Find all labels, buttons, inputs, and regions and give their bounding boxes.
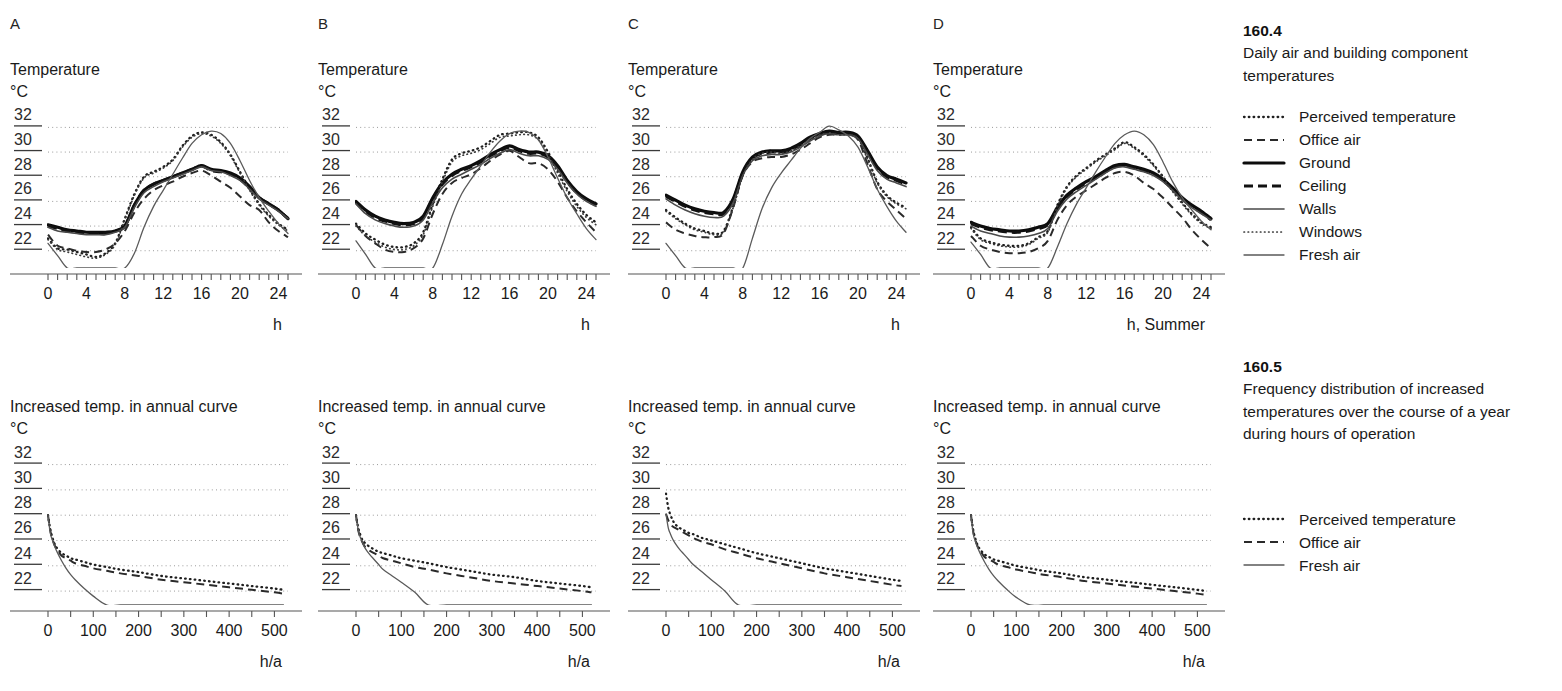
- xtick-label-24: 24: [888, 285, 906, 302]
- xtick-label-100: 100: [80, 622, 107, 639]
- legend-item-ground: Ground: [1243, 151, 1543, 174]
- series-line-perceived-temperature: [48, 515, 283, 590]
- xtick-label-400: 400: [524, 622, 551, 639]
- chart-B-annual: 2224262830320100200300400500: [318, 453, 614, 647]
- xtick-label-4: 4: [700, 285, 709, 302]
- series-line-ceiling: [971, 166, 1211, 233]
- x-axis-label: h/a: [933, 653, 1205, 671]
- legend-label: Office air: [1299, 535, 1361, 551]
- ytick-label-28: 28: [14, 156, 32, 173]
- xtick-label-12: 12: [772, 285, 790, 302]
- series-line-walls: [971, 167, 1211, 238]
- y-axis-unit: °C: [628, 418, 924, 440]
- series-line-office-air: [356, 151, 596, 253]
- ytick-label-22: 22: [14, 230, 32, 247]
- figure-root: ATemperature°C22242628303204812162024hIn…: [0, 0, 1562, 691]
- xtick-label-8: 8: [428, 285, 437, 302]
- x-axis-label: h/a: [10, 653, 282, 671]
- ytick-label-32: 32: [632, 107, 650, 124]
- xtick-label-12: 12: [154, 285, 172, 302]
- xtick-label-24: 24: [1193, 285, 1211, 302]
- series-line-perceived-temperature: [971, 515, 1206, 591]
- ytick-label-24: 24: [937, 205, 955, 222]
- ytick-label-30: 30: [937, 469, 955, 486]
- xtick-label-300: 300: [1093, 622, 1120, 639]
- xtick-label-8: 8: [738, 285, 747, 302]
- series-line-fresh-air: [48, 131, 288, 269]
- y-axis-unit: °C: [10, 418, 306, 440]
- xtick-label-200: 200: [743, 622, 770, 639]
- ytick-label-22: 22: [937, 230, 955, 247]
- series-line-perceived-temperature: [666, 494, 901, 581]
- legend-swatch-bold-dashed-icon: [1243, 180, 1285, 192]
- chart-D-daily: 22242628303204812162024: [933, 116, 1229, 310]
- xtick-label-0: 0: [662, 285, 671, 302]
- ytick-label-26: 26: [632, 181, 650, 198]
- ytick-label-30: 30: [322, 469, 340, 486]
- xtick-label-300: 300: [170, 622, 197, 639]
- legend-label: Walls: [1299, 201, 1336, 217]
- xtick-label-20: 20: [539, 285, 557, 302]
- panel-a-annual: Increased temp. in annual curve°C2224262…: [10, 396, 306, 671]
- legend-swatch-dotted-icon: [1243, 111, 1285, 123]
- caption-number: 160.5: [1243, 356, 1543, 378]
- xtick-label-20: 20: [231, 285, 249, 302]
- ytick-label-24: 24: [14, 205, 32, 222]
- xtick-label-100: 100: [698, 622, 725, 639]
- series-line-perceived-temperature: [356, 515, 591, 587]
- ytick-label-26: 26: [937, 520, 955, 537]
- series-line-walls: [356, 150, 596, 228]
- ytick-label-22: 22: [322, 230, 340, 247]
- legend-swatch-thin-solid-icon: [1243, 249, 1285, 261]
- ytick-label-22: 22: [632, 230, 650, 247]
- x-axis-label: h/a: [318, 653, 590, 671]
- ytick-label-28: 28: [632, 156, 650, 173]
- series-group: [356, 515, 591, 606]
- xtick-label-0: 0: [967, 622, 976, 639]
- chart-title: Increased temp. in annual curve: [628, 396, 924, 418]
- x-axis-label: h/a: [628, 653, 900, 671]
- legend-swatch-thick-solid-icon: [1243, 157, 1285, 169]
- xtick-label-0: 0: [662, 622, 671, 639]
- ytick-label-26: 26: [322, 181, 340, 198]
- series-line-office-air: [971, 515, 1206, 595]
- ytick-label-28: 28: [322, 494, 340, 511]
- legend-swatch-solid-icon: [1243, 203, 1285, 215]
- x-axis-label: h: [318, 316, 590, 334]
- legend-item-office-air: Office air: [1243, 128, 1543, 151]
- ytick-label-30: 30: [14, 131, 32, 148]
- xtick-label-24: 24: [270, 285, 288, 302]
- chart-title: Increased temp. in annual curve: [10, 396, 306, 418]
- chart-title: Temperature: [10, 59, 306, 81]
- series-group: [971, 131, 1211, 269]
- legend-swatch-fine-dotted-icon: [1243, 226, 1285, 238]
- xtick-label-100: 100: [1003, 622, 1030, 639]
- series-line-ground: [48, 166, 288, 233]
- series-line-fresh-air: [971, 131, 1211, 269]
- xtick-label-400: 400: [834, 622, 861, 639]
- chart-host: 2224262830320100200300400500: [933, 453, 1229, 647]
- series-line-fresh-air: [971, 515, 1206, 605]
- ytick-label-24: 24: [632, 545, 650, 562]
- series-line-office-air: [48, 515, 283, 593]
- xtick-label-200: 200: [433, 622, 460, 639]
- xtick-label-400: 400: [1139, 622, 1166, 639]
- chart-title: Increased temp. in annual curve: [318, 396, 614, 418]
- panel-letter-c: C: [628, 16, 924, 31]
- xtick-label-0: 0: [44, 285, 53, 302]
- chart-title: Increased temp. in annual curve: [933, 396, 1229, 418]
- xtick-label-20: 20: [849, 285, 867, 302]
- legend-label: Fresh air: [1299, 247, 1360, 263]
- series-line-windows: [48, 134, 288, 259]
- panel-d-annual: Increased temp. in annual curve°C2224262…: [933, 396, 1229, 671]
- chart-A-daily: 22242628303204812162024: [10, 116, 306, 310]
- panel-a-daily: ATemperature°C22242628303204812162024h: [10, 16, 306, 334]
- series-line-fresh-air: [48, 515, 283, 605]
- series-line-perceived-temperature: [666, 133, 906, 235]
- chart-title: Temperature: [318, 59, 614, 81]
- chart-D-annual: 2224262830320100200300400500: [933, 453, 1229, 647]
- ytick-label-28: 28: [937, 494, 955, 511]
- xtick-label-500: 500: [879, 622, 906, 639]
- legend-item-walls: Walls: [1243, 197, 1543, 220]
- caption-text: Frequency distribution of increased temp…: [1243, 378, 1543, 445]
